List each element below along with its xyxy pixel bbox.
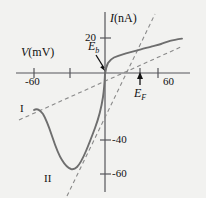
y-tick-label-minus40: -40 (112, 134, 127, 145)
y-axis-label: I(nA) (110, 12, 137, 24)
branch-label-two: II (44, 173, 51, 184)
iv-curve-figure: V(mV) I(nA) 20 -40 -60 -60 60 Eb EF I II (0, 0, 206, 198)
eb-arrow-head (100, 66, 105, 71)
eb-label: Eb (88, 40, 99, 55)
eb-subscript: b (95, 46, 99, 55)
x-tick-label-60: 60 (163, 76, 174, 87)
ef-subscript: F (141, 93, 146, 102)
y-axis-label-unit: (nA) (114, 11, 137, 25)
x-axis-label: V(mV) (21, 46, 54, 58)
branch-label-one: I (20, 103, 24, 114)
x-tick-label-minus60: -60 (25, 76, 40, 87)
iv-curve (34, 39, 182, 170)
y-tick-label-minus60: -60 (112, 168, 127, 179)
x-axis-label-unit: (mV) (28, 45, 54, 59)
plot-svg (0, 0, 206, 198)
ef-label: EF (134, 87, 146, 102)
dashed-line-steep (67, 14, 155, 196)
